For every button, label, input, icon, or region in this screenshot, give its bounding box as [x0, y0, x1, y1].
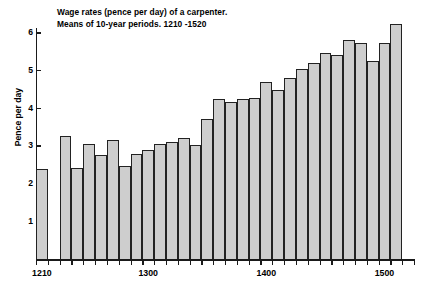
bar-1420 [284, 78, 296, 260]
x-tick-25 [331, 260, 332, 265]
bar-1500 [379, 43, 391, 260]
y-tick-label-5: 5 [17, 66, 33, 75]
x-tick-label-1300: 1300 [138, 268, 158, 278]
bar-1460 [331, 55, 343, 260]
y-tick-label-4: 4 [17, 104, 33, 113]
x-tick-0 [36, 260, 37, 265]
bar-1210 [36, 169, 48, 260]
x-tick-15 [213, 260, 214, 265]
x-tick-label-1500: 1500 [375, 268, 395, 278]
bar-1480 [355, 43, 367, 260]
y-tick-label-3: 3 [17, 141, 33, 150]
y-tick-label-6: 6 [17, 28, 33, 37]
bar-1300 [142, 150, 154, 260]
x-tick-11 [166, 260, 167, 265]
x-tick-13 [190, 260, 191, 265]
bar-1490 [367, 61, 379, 260]
bar-1250 [83, 144, 95, 260]
x-tick-6 [107, 260, 108, 265]
y-tick-label-2: 2 [17, 179, 33, 188]
x-tick-20 [272, 260, 273, 265]
x-tick-32 [414, 260, 415, 265]
bar-1440 [308, 63, 320, 260]
bar-1320 [166, 142, 178, 260]
bar-1510 [390, 24, 402, 260]
x-tick-29 [379, 260, 380, 265]
x-tick-23 [308, 260, 309, 265]
x-tick-9 [142, 260, 143, 265]
x-tick-18 [249, 260, 250, 265]
x-tick-21 [284, 260, 285, 265]
bar-1350 [201, 119, 213, 260]
x-tick-31 [402, 260, 403, 265]
x-tick-3 [71, 260, 72, 265]
x-tick-7 [119, 260, 120, 265]
bar-1230 [60, 136, 72, 260]
x-tick-4 [83, 260, 84, 265]
bar-1400 [260, 82, 272, 260]
x-tick-1 [48, 260, 49, 265]
bar-1360 [213, 99, 225, 260]
bar-1380 [237, 99, 249, 260]
plot-area [36, 14, 414, 260]
x-tick-2 [60, 260, 61, 265]
bar-1470 [343, 40, 355, 260]
x-tick-14 [201, 260, 202, 265]
x-tick-16 [225, 260, 226, 265]
x-tick-17 [237, 260, 238, 265]
x-tick-28 [367, 260, 368, 265]
bar-1280 [119, 166, 131, 260]
bar-1330 [178, 138, 190, 260]
bar-1260 [95, 155, 107, 260]
x-tick-30 [390, 260, 391, 265]
bar-1310 [154, 144, 166, 260]
x-tick-19 [260, 260, 261, 265]
x-tick-26 [343, 260, 344, 265]
bar-1430 [296, 69, 308, 260]
y-tick-label-1: 1 [17, 217, 33, 226]
x-tick-10 [154, 260, 155, 265]
bar-1340 [190, 145, 202, 260]
bar-1240 [71, 168, 83, 260]
x-tick-5 [95, 260, 96, 265]
bar-1410 [272, 90, 284, 260]
bar-1290 [131, 154, 143, 260]
x-tick-24 [320, 260, 321, 265]
x-tick-12 [178, 260, 179, 265]
bar-1270 [107, 140, 119, 260]
bar-1450 [320, 53, 332, 260]
x-tick-label-1400: 1400 [257, 268, 277, 278]
x-tick-8 [131, 260, 132, 265]
bar-1390 [249, 98, 261, 260]
x-tick-label-1210: 1210 [32, 268, 52, 278]
x-tick-22 [296, 260, 297, 265]
x-tick-27 [355, 260, 356, 265]
wage-rates-bar-chart: Wage rates (pence per day) of a carpente… [0, 0, 423, 292]
bar-1370 [225, 102, 237, 260]
